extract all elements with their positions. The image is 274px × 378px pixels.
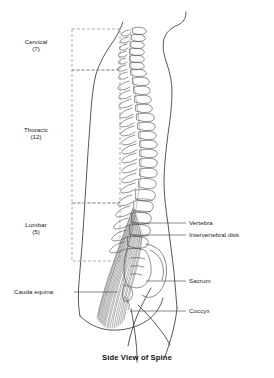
spine-diagram bbox=[0, 0, 274, 378]
region-label-cervical: Cervical (7) bbox=[8, 38, 64, 53]
body-outline-group bbox=[78, 12, 186, 362]
callout-label-cauda-equina: Cauda equina bbox=[14, 288, 53, 295]
lumbar-vertebrae bbox=[110, 189, 156, 253]
region-label-thoracic: Thoracic (12) bbox=[8, 126, 64, 141]
sacrum bbox=[124, 248, 151, 288]
back-contour-path bbox=[163, 12, 186, 308]
region-box-thoracic bbox=[72, 70, 120, 203]
pelvis-outline bbox=[142, 244, 167, 298]
region-box-cervical bbox=[72, 29, 120, 70]
callout-label-vertebra: Vertebra bbox=[189, 219, 213, 226]
region-label-cervical-count: (7) bbox=[8, 45, 64, 52]
callout-label-intervertebral-disk: Intervertebral disk bbox=[189, 231, 239, 238]
callout-label-sacrum: Sacrum bbox=[189, 277, 211, 284]
cauda-equina bbox=[97, 208, 142, 328]
thigh-line-upper-path bbox=[128, 288, 151, 346]
front-contour-path bbox=[78, 22, 123, 316]
callout-label-coccyx: Coccyx bbox=[189, 307, 210, 314]
thoracic-vertebrae bbox=[118, 77, 158, 193]
region-box-lumbar bbox=[72, 203, 120, 261]
region-label-lumbar: Lumbar (5) bbox=[8, 221, 64, 236]
back-lower-extension-path bbox=[165, 308, 177, 357]
region-boxes-group bbox=[72, 29, 120, 261]
region-label-thoracic-name: Thoracic bbox=[8, 126, 64, 133]
gluteal-contour-path bbox=[80, 298, 163, 330]
spinal-column-group bbox=[97, 27, 167, 328]
region-label-lumbar-count: (5) bbox=[8, 228, 64, 235]
region-label-thoracic-count: (12) bbox=[8, 133, 64, 140]
region-label-lumbar-name: Lumbar bbox=[8, 221, 64, 228]
region-label-cervical-name: Cervical bbox=[8, 38, 64, 45]
figure-caption: Side View of Spine bbox=[0, 353, 274, 362]
